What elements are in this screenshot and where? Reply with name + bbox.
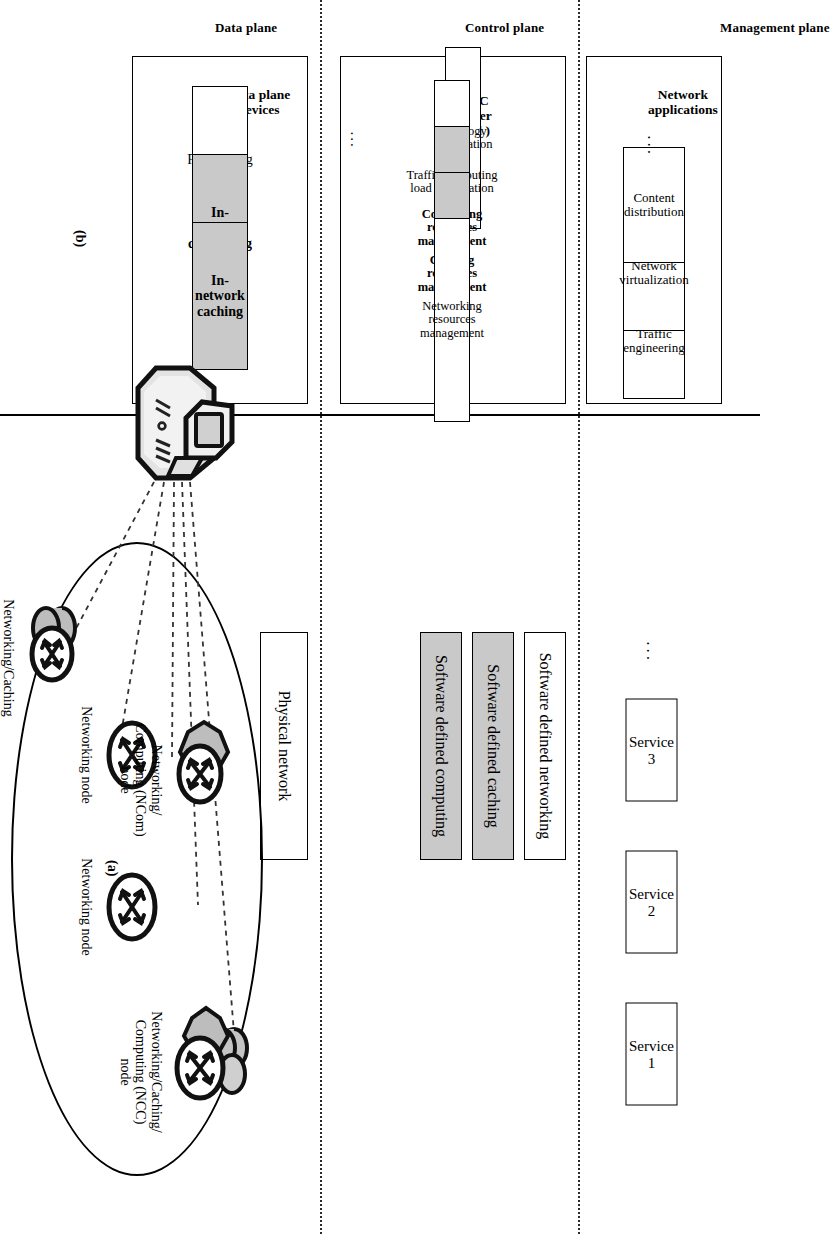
service-label: Service 1 — [627, 1038, 677, 1070]
node-label-ncc: Networking/Caching/ Computing (NCC) node — [117, 984, 164, 1160]
plane-label-management: Management plane — [720, 20, 830, 36]
sd-layer-label: Software defined caching — [484, 664, 501, 827]
sd-ncc-controller-server[interactable] — [134, 362, 238, 484]
controller-module-label: Networking resources management — [420, 300, 484, 341]
sd-layer-computing[interactable]: Software defined computing — [420, 632, 462, 860]
service-label: Service 3 — [627, 734, 677, 766]
app-label: Content distribution — [624, 191, 684, 219]
node-networking-caching-nca[interactable] — [22, 598, 92, 690]
sd-layer-caching[interactable]: Software defined caching — [472, 632, 514, 860]
applications-ellipsis: ... — [644, 126, 663, 166]
sd-layer-label: Software defined networking — [536, 653, 553, 840]
plane-label-data: Data plane — [215, 20, 277, 36]
controller-modules-ellipsis: ... — [347, 125, 364, 155]
service-box-2[interactable]: Service 2 — [626, 851, 678, 954]
device-function-in-network-caching[interactable]: In-network caching — [192, 222, 248, 370]
sd-layer-label: Software defined computing — [432, 655, 449, 837]
node-label-networking-1: Networking node — [78, 690, 94, 820]
node-networking-caching-computing-ncc[interactable] — [166, 1002, 252, 1118]
physical-network-label: Physical network — [275, 691, 292, 802]
node-label-ncom: Networking/ Computing (NCom) node — [117, 700, 164, 860]
subfigure-b-caption: (b) — [72, 230, 88, 247]
device-function-label: In-network caching — [193, 273, 247, 318]
node-label-networking-2: Networking node — [78, 842, 94, 972]
service-box-3[interactable]: Service 3 — [626, 699, 678, 802]
node-networking-2[interactable] — [102, 870, 162, 944]
subfigure-divider — [0, 414, 760, 416]
service-box-1[interactable]: Service 1 — [626, 1003, 678, 1106]
controller-module-networking-resources[interactable]: Networking resources management — [434, 218, 470, 422]
network-applications-title: Network applications — [641, 87, 725, 117]
plane-divider-control-data — [320, 0, 322, 1234]
app-label: Network virtualization — [619, 259, 688, 287]
plane-label-control: Control plane — [465, 20, 544, 36]
sd-layer-networking[interactable]: Software defined networking — [524, 632, 566, 860]
plane-divider-management-control — [578, 0, 580, 1234]
app-label: Traffic engineering — [623, 327, 684, 355]
physical-network-box[interactable]: Physical network — [260, 632, 308, 860]
node-label-nca: Networking/Caching (NCa) node — [0, 568, 16, 748]
services-ellipsis: ... — [643, 632, 662, 672]
node-networking-computing-ncom[interactable] — [170, 718, 232, 814]
service-label: Service 2 — [627, 886, 677, 918]
